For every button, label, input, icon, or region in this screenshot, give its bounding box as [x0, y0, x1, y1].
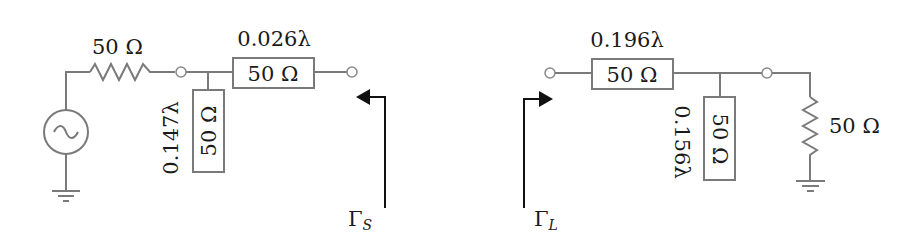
wire-to-load-resistor: [772, 73, 810, 97]
stub-length: 0.147λ: [159, 101, 183, 174]
stub-length: 0.156λ: [670, 105, 694, 178]
series-line-impedance: 50 Ω: [607, 63, 658, 87]
circuit-diagram: 50 Ω 50 Ω 0.026λ 50 Ω 0.147λ: [0, 0, 921, 238]
ground-icon: [52, 191, 80, 201]
output-terminal: [347, 67, 357, 77]
source-network: 50 Ω 50 Ω 0.026λ 50 Ω 0.147λ: [44, 27, 385, 233]
gamma-l-arrow: [524, 91, 553, 208]
wire-source-top: [66, 72, 90, 110]
load-network: 50 Ω 0.196λ 50 Ω 0.156λ 50 Ω ΓL: [524, 28, 880, 233]
stub-impedance: 50 Ω: [197, 106, 221, 157]
source-resistor: [90, 64, 175, 80]
series-line-impedance: 50 Ω: [248, 62, 299, 86]
series-line-length: 0.196λ: [590, 28, 663, 52]
ground-icon: [796, 181, 825, 191]
gamma-s-arrow: [356, 89, 385, 208]
load-resistor: [803, 97, 817, 180]
gamma-s-label: ΓS: [348, 207, 372, 233]
load-terminal: [762, 68, 772, 78]
stub-impedance: 50 Ω: [708, 114, 732, 165]
terminal-node: [176, 67, 186, 77]
sine-wave-icon: [54, 126, 78, 138]
gamma-l-label: ΓL: [534, 207, 558, 233]
input-terminal: [545, 68, 555, 78]
source-resistor-label: 50 Ω: [92, 35, 143, 59]
load-resistor-label: 50 Ω: [829, 114, 880, 138]
series-line-length: 0.026λ: [237, 27, 310, 51]
